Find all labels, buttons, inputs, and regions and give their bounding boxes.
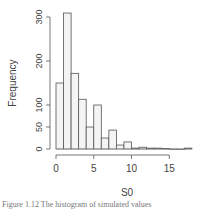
x-axis-label: S0	[121, 187, 134, 198]
histogram-bar	[101, 138, 109, 149]
histogram-bar	[124, 142, 132, 149]
x-tick-label: 5	[91, 163, 97, 174]
histogram-bar	[116, 145, 124, 149]
x-axis: 051015	[53, 155, 175, 174]
x-tick-label: 15	[164, 163, 176, 174]
histogram-bar	[86, 127, 94, 149]
y-axis: 050100200300	[34, 9, 50, 151]
histogram-bar	[109, 130, 117, 149]
x-tick-label: 10	[126, 163, 138, 174]
histogram-bar	[56, 83, 64, 149]
y-axis-label: Frequency	[7, 59, 18, 106]
histogram-bar	[71, 73, 79, 149]
y-tick-label: 200	[34, 53, 44, 68]
histogram-bar	[79, 99, 87, 149]
histogram-chart: 050100200300 051015 Frequency S0	[0, 0, 200, 200]
y-tick-label: 300	[34, 9, 44, 24]
y-tick-label: 0	[34, 146, 44, 151]
histogram-bar	[94, 105, 102, 149]
y-tick-label: 100	[34, 97, 44, 112]
histogram-bars	[56, 13, 192, 149]
figure-caption: Figure 1.12 The histogram of simulated v…	[0, 200, 200, 209]
y-tick-label: 50	[34, 122, 44, 132]
x-tick-label: 0	[53, 163, 59, 174]
histogram-bar	[64, 13, 72, 149]
